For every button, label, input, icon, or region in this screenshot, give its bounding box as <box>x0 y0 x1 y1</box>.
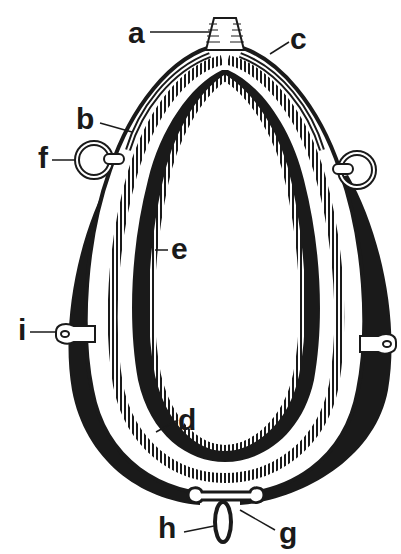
label-h: h <box>158 513 176 543</box>
trace-eye-right <box>360 334 396 354</box>
bottom-ring <box>215 502 231 542</box>
label-f: f <box>38 143 48 173</box>
horse-collar-diagram <box>0 0 401 554</box>
label-d: d <box>178 405 196 435</box>
label-i: i <box>18 315 26 345</box>
top-cap <box>206 18 244 50</box>
trace-eye-left <box>56 324 95 344</box>
label-a: a <box>128 18 145 48</box>
label-b: b <box>76 104 94 134</box>
label-c: c <box>290 24 307 54</box>
label-e: e <box>171 234 188 264</box>
label-g: g <box>279 518 297 548</box>
